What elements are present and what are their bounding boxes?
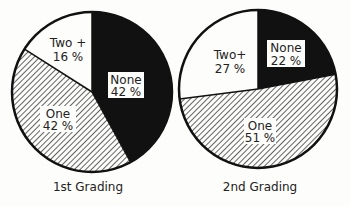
label-two-name: Two + <box>49 36 86 50</box>
pie-charts: None 42 % One 42 % Two + 16 % 1st Gradin… <box>0 0 350 206</box>
label-one-pct: 42 % <box>43 119 74 133</box>
label-none-pct: 42 % <box>111 85 142 99</box>
label-one-pct: 51 % <box>245 131 276 145</box>
label-two-pct: 16 % <box>53 50 84 64</box>
label-none-pct: 22 % <box>271 54 302 68</box>
caption-2nd-grading: 2nd Grading <box>223 180 297 194</box>
pie-1st-grading: None 42 % One 42 % Two + 16 % 1st Gradin… <box>12 12 172 194</box>
label-two-name: Two+ <box>213 48 247 62</box>
label-two-pct: 27 % <box>215 62 246 76</box>
caption-1st-grading: 1st Grading <box>53 180 123 194</box>
label-none-name: None <box>270 41 301 55</box>
pie-2nd-grading: None 22 % One 51 % Two+ 27 % 2nd Grading <box>179 10 337 194</box>
